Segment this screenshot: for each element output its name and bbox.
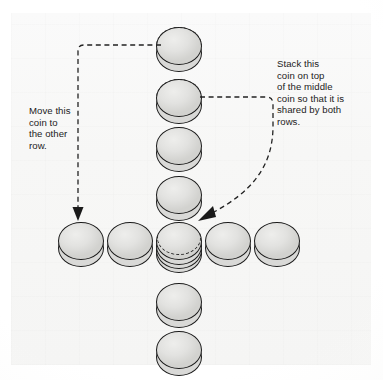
coin-h2[interactable] (107, 222, 153, 264)
coin-v7[interactable] (156, 331, 202, 373)
coin-v6[interactable] (156, 283, 202, 325)
coin-v1[interactable] (156, 27, 202, 69)
coin-face (254, 222, 300, 260)
coin-v4[interactable] (156, 176, 202, 218)
coin-face (107, 222, 153, 260)
coin-face (156, 331, 202, 369)
coin-h1[interactable] (58, 222, 104, 264)
coin-face (205, 222, 251, 260)
coin-face (156, 127, 202, 165)
coin-h4[interactable] (205, 222, 251, 264)
coin-v2[interactable] (156, 79, 202, 121)
coin-face (58, 222, 104, 260)
coin-v3[interactable] (156, 127, 202, 169)
coin-face (156, 176, 202, 214)
coin-face (156, 283, 202, 321)
coin-puzzle-figure: Move this coin to the other row. Stack t… (0, 0, 383, 380)
move-coin-note: Move this coin to the other row. (29, 105, 91, 151)
stack-coin-note: Stack this coin on top of the middle coi… (277, 58, 377, 128)
coin-v5-center[interactable] (156, 222, 202, 274)
coin-h5[interactable] (254, 222, 300, 264)
